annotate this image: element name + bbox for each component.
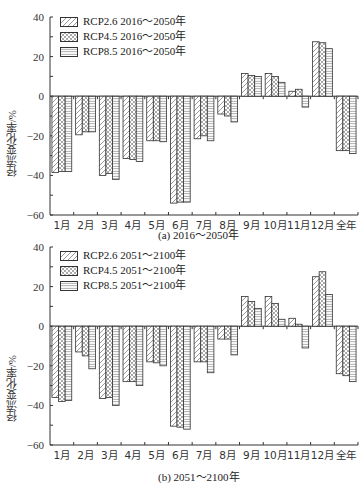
bar xyxy=(336,96,343,150)
bar xyxy=(313,277,320,327)
y-tick-label: 0 xyxy=(39,320,45,332)
y-tick-label: −20 xyxy=(27,360,45,372)
legend: RCP2.6 2016～2050年 RCP4.5 2016～2050年 RCP8… xyxy=(60,14,186,59)
legend: RCP2.6 2051～2100年 RCP4.5 2051～2100年 RCP8… xyxy=(60,248,186,293)
bar xyxy=(218,326,225,339)
x-tick-label: 1月 xyxy=(54,219,71,231)
legend-item-rcp45: RCP4.5 2051～2100年 xyxy=(60,263,186,278)
y-tick-label: 20 xyxy=(33,281,45,293)
bar xyxy=(255,308,262,326)
x-tick-label: 1月 xyxy=(54,449,71,461)
bar xyxy=(302,96,309,107)
y-tick-label: 0 xyxy=(39,90,45,102)
legend-item-rcp26: RCP2.6 2016～2050年 xyxy=(60,14,186,29)
bar xyxy=(123,326,130,381)
bar xyxy=(184,326,191,429)
bar xyxy=(194,96,201,139)
x-tick-label: 2月 xyxy=(77,449,94,461)
bar xyxy=(136,326,143,385)
bar xyxy=(201,96,208,136)
bar xyxy=(130,96,137,159)
bar xyxy=(207,96,214,141)
legend-item-rcp85: RCP8.5 2051～2100年 xyxy=(60,278,186,293)
horizontal-hatch-swatch-icon xyxy=(60,47,78,57)
bar xyxy=(326,49,333,97)
bar xyxy=(343,96,350,150)
legend-label: RCP8.5 2051～2100年 xyxy=(83,278,186,293)
bar xyxy=(82,96,89,132)
bar xyxy=(265,297,272,327)
bar xyxy=(272,76,279,96)
x-tick-label: 4月 xyxy=(125,449,142,461)
chart-caption: (a) 2016～2050年 xyxy=(158,226,239,242)
legend-label: RCP4.5 2051～2100年 xyxy=(83,263,186,278)
bar xyxy=(302,326,309,348)
y-tick-label: −20 xyxy=(27,130,45,142)
bar xyxy=(89,326,96,369)
bar xyxy=(319,272,326,326)
bar xyxy=(170,96,177,203)
bar xyxy=(278,319,285,326)
crosshatch-swatch-icon xyxy=(60,266,78,276)
chart-caption: (b) 2051～2100年 xyxy=(158,468,240,484)
bar xyxy=(123,96,130,158)
bar xyxy=(59,326,66,401)
bar xyxy=(349,96,356,153)
bar xyxy=(231,96,238,122)
bar xyxy=(106,326,113,397)
diagonal-hatch-swatch-icon xyxy=(60,17,78,27)
horizontal-hatch-swatch-icon xyxy=(60,281,78,291)
bar xyxy=(319,43,326,96)
legend-item-rcp85: RCP8.5 2016～2050年 xyxy=(60,44,186,59)
bar xyxy=(218,96,225,114)
x-tick-label: 4月 xyxy=(125,219,142,231)
bar xyxy=(99,326,106,398)
y-tick-label: −40 xyxy=(27,169,45,181)
bar xyxy=(82,326,89,356)
y-axis-label: 径流变化率/% xyxy=(4,110,20,177)
chart-panel-a: 40200−20−40−601月2月3月4月5月6月7月8月9月10月11月12… xyxy=(0,0,362,243)
x-tick-label: 12月 xyxy=(311,449,334,461)
bar xyxy=(231,326,238,355)
x-tick-label: 11月 xyxy=(287,219,310,231)
x-tick-label: 8月 xyxy=(219,449,236,461)
bar xyxy=(76,96,83,135)
x-tick-label: 全年 xyxy=(336,449,356,461)
bar xyxy=(289,91,296,96)
legend-label: RCP4.5 2016～2050年 xyxy=(83,29,186,44)
bar xyxy=(326,295,333,327)
legend-label: RCP2.6 2051～2100年 xyxy=(83,248,186,263)
bar xyxy=(177,326,184,427)
diagonal-hatch-swatch-icon xyxy=(60,251,78,261)
bar xyxy=(59,96,66,171)
legend-item-rcp45: RCP4.5 2016～2050年 xyxy=(60,29,186,44)
x-tick-label: 11月 xyxy=(287,449,310,461)
crosshatch-swatch-icon xyxy=(60,32,78,42)
legend-item-rcp26: RCP2.6 2051～2100年 xyxy=(60,248,186,263)
y-tick-label: −60 xyxy=(27,439,45,451)
y-tick-label: −60 xyxy=(27,209,45,221)
x-tick-label: 10月 xyxy=(263,219,286,231)
bar xyxy=(113,326,120,405)
bar xyxy=(113,96,120,179)
bar xyxy=(106,96,113,173)
bar xyxy=(147,96,154,141)
x-tick-label: 6月 xyxy=(172,449,189,461)
bar xyxy=(184,96,191,202)
bar xyxy=(241,297,248,327)
bar xyxy=(224,96,231,116)
x-tick-label: 2月 xyxy=(77,219,94,231)
x-tick-label: 全年 xyxy=(336,219,356,231)
bar xyxy=(343,326,350,376)
bar xyxy=(248,75,255,96)
x-tick-label: 9月 xyxy=(243,449,260,461)
bar xyxy=(76,326,83,352)
bar xyxy=(295,89,302,96)
legend-label: RCP8.5 2016～2050年 xyxy=(83,44,186,59)
bar xyxy=(160,326,167,366)
legend-label: RCP2.6 2016～2050年 xyxy=(83,14,186,29)
bar xyxy=(336,326,343,374)
x-tick-label: 3月 xyxy=(101,219,118,231)
bar xyxy=(194,326,201,362)
bar xyxy=(289,318,296,326)
